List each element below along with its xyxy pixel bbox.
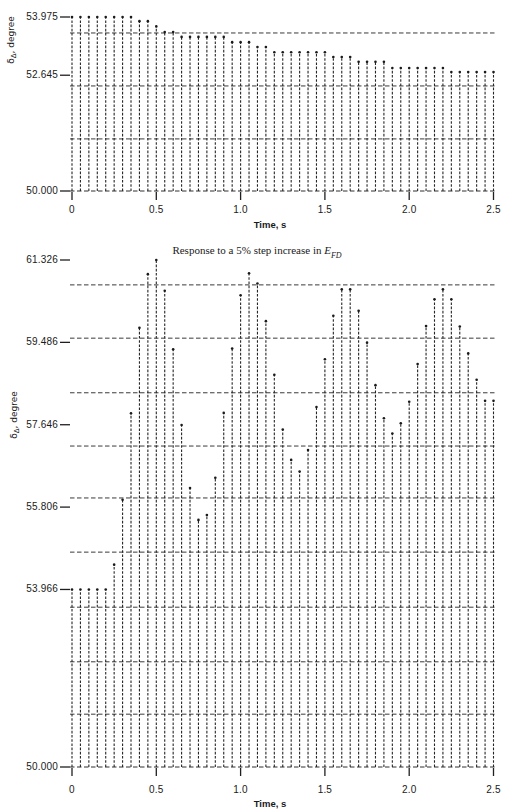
x-tick-label: 2.5 — [486, 785, 501, 795]
chart-top-x-axis-label: Time, s — [254, 219, 287, 230]
y-tick-label: 59.486 — [26, 337, 58, 347]
x-tick-label: 1.0 — [233, 785, 248, 795]
x-tick-label: 0.5 — [149, 785, 164, 795]
x-tick-label: 1.5 — [318, 205, 333, 215]
ylabel-unit: , degree — [9, 391, 19, 428]
ylabel-subscript: Δ — [13, 428, 21, 433]
y-tick-label: 52.645 — [26, 70, 58, 80]
x-tick-label: 0.5 — [149, 205, 164, 215]
x-tick-label: 2.0 — [402, 205, 417, 215]
x-tick-label: 2.0 — [402, 785, 417, 795]
chart-bottom-title: Response to a 5% step increase in EFD — [172, 244, 341, 259]
ylabel-unit: , degree — [6, 16, 16, 53]
chart-top-y-axis-label: δΔ, degree — [6, 16, 19, 64]
y-tick-label: 50.000 — [26, 186, 58, 196]
title-text: Response to a 5% step increase in — [172, 244, 324, 256]
x-tick-label: 1.0 — [233, 205, 248, 215]
chart-bottom-y-axis-label: δΔ, degree — [9, 391, 22, 439]
y-tick-label: 55.806 — [26, 502, 58, 512]
y-tick-label: 50.000 — [26, 762, 58, 772]
x-tick-label: 2.5 — [486, 205, 501, 215]
y-tick-label: 61.326 — [26, 255, 58, 265]
y-tick-label: 53.966 — [26, 584, 58, 594]
ylabel-symbol: δ — [9, 433, 19, 439]
x-tick-label: 0 — [69, 785, 75, 795]
ylabel-symbol: δ — [6, 58, 16, 64]
x-tick-label: 0 — [69, 205, 75, 215]
ylabel-subscript: Δ — [10, 53, 18, 58]
title-variable-subscript: FD — [331, 251, 342, 260]
y-tick-label: 53.975 — [26, 12, 58, 22]
chart-bottom-x-axis-label: Time, s — [254, 798, 287, 809]
tick-label-layer: 00.51.01.52.02.553.97552.64550.00000.51.… — [0, 0, 507, 809]
figure-page: 00.51.01.52.02.553.97552.64550.00000.51.… — [0, 0, 507, 809]
x-tick-label: 1.5 — [318, 785, 333, 795]
y-tick-label: 57.646 — [26, 420, 58, 430]
title-variable: E — [324, 244, 331, 256]
